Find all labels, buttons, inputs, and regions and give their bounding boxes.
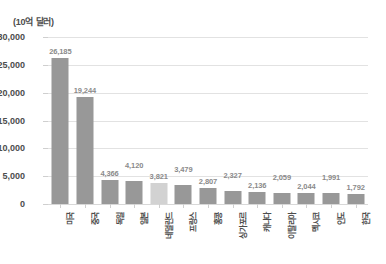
x-axis-label: 한국 bbox=[360, 212, 371, 225]
bar-group: 2,059 bbox=[270, 37, 295, 204]
bar-value-label: 2,327 bbox=[223, 171, 241, 180]
bar[interactable] bbox=[175, 185, 192, 204]
x-tick-mark bbox=[85, 204, 86, 208]
bar[interactable] bbox=[323, 193, 340, 204]
bar-value-label: 19,244 bbox=[74, 86, 96, 95]
x-axis-label: 인도 bbox=[335, 212, 346, 225]
bar[interactable] bbox=[126, 181, 143, 204]
y-tick-label: 10,000 bbox=[0, 143, 25, 153]
bar[interactable] bbox=[298, 193, 315, 204]
y-tick-label: 30,000 bbox=[0, 32, 25, 42]
x-axis-label: 미국 bbox=[64, 212, 75, 225]
x-axis-label: 프랑스 bbox=[187, 212, 198, 232]
x-tick-mark bbox=[134, 204, 135, 208]
x-tick-mark bbox=[306, 204, 307, 208]
bar-value-label: 1,792 bbox=[347, 183, 365, 192]
x-tick-mark bbox=[208, 204, 209, 208]
x-tick-mark bbox=[159, 204, 160, 208]
x-tick-mark bbox=[282, 204, 283, 208]
bar-group: 2,044 bbox=[294, 37, 319, 204]
bar[interactable] bbox=[76, 97, 93, 204]
bar-value-label: 3,821 bbox=[150, 172, 168, 181]
y-tick-label: 20,000 bbox=[0, 88, 25, 98]
bar-group: 19,244 bbox=[73, 37, 98, 204]
bar-group: 1,991 bbox=[319, 37, 344, 204]
bar-group: 3,479 bbox=[171, 37, 196, 204]
bar-value-label: 2,059 bbox=[273, 173, 291, 182]
x-axis-label: 멕시코 bbox=[310, 212, 321, 232]
bar-value-label: 4,120 bbox=[125, 161, 143, 170]
bar-value-label: 1,991 bbox=[322, 173, 340, 182]
bar-value-label: 4,366 bbox=[100, 169, 118, 178]
y-tick-mark bbox=[43, 204, 48, 205]
bar-value-label: 2,807 bbox=[199, 177, 217, 186]
bar[interactable] bbox=[273, 193, 290, 204]
y-tick-label: 0 bbox=[0, 199, 25, 209]
plot-area: 30,00025,00020,00015,00010,0005,0000 26,… bbox=[48, 37, 368, 204]
x-axis-label: 독일 bbox=[114, 212, 125, 225]
x-tick-mark bbox=[233, 204, 234, 208]
bar-group: 1,792 bbox=[343, 37, 368, 204]
bars-layer: 26,18519,2444,3664,1203,8213,4792,8072,3… bbox=[48, 37, 368, 204]
y-tick-label: 5,000 bbox=[0, 171, 25, 181]
x-tick-mark bbox=[356, 204, 357, 208]
y-axis-unit-title: (10억 달러) bbox=[13, 15, 54, 28]
x-tick-mark bbox=[331, 204, 332, 208]
bar-chart: (10억 달러) 30,00025,00020,00015,00010,0005… bbox=[0, 0, 386, 264]
x-tick-mark bbox=[60, 204, 61, 208]
x-axis-label: 이탈리아 bbox=[286, 212, 297, 239]
bar-group: 2,327 bbox=[220, 37, 245, 204]
x-axis-label: 네덜란드 bbox=[163, 212, 174, 239]
bar[interactable] bbox=[347, 194, 364, 204]
x-axis-label: 싱가포르 bbox=[237, 212, 248, 239]
y-tick-label: 25,000 bbox=[0, 60, 25, 70]
y-tick-label: 15,000 bbox=[0, 116, 25, 126]
x-tick-mark bbox=[110, 204, 111, 208]
bar-group: 2,136 bbox=[245, 37, 270, 204]
bar[interactable] bbox=[199, 188, 216, 204]
bar-value-label: 2,044 bbox=[297, 182, 315, 191]
bar-value-label: 3,479 bbox=[174, 165, 192, 174]
x-tick-mark bbox=[183, 204, 184, 208]
bar-group: 4,120 bbox=[122, 37, 147, 204]
bar[interactable] bbox=[150, 183, 167, 204]
bar-group: 4,366 bbox=[97, 37, 122, 204]
bar[interactable] bbox=[249, 192, 266, 204]
x-axis-label: 홍콩 bbox=[212, 212, 223, 225]
x-axis-label: 중국 bbox=[89, 212, 100, 225]
x-axis-label: 일본 bbox=[138, 212, 149, 225]
bar-group: 2,807 bbox=[196, 37, 221, 204]
bar-value-label: 26,185 bbox=[49, 47, 71, 56]
bar[interactable] bbox=[224, 191, 241, 204]
x-tick-mark bbox=[257, 204, 258, 208]
bar[interactable] bbox=[52, 58, 69, 204]
x-axis-label: 캐나다 bbox=[261, 212, 272, 232]
bar-group: 3,821 bbox=[146, 37, 171, 204]
bar[interactable] bbox=[101, 180, 118, 204]
bar-group: 26,185 bbox=[48, 37, 73, 204]
bar-value-label: 2,136 bbox=[248, 181, 266, 190]
